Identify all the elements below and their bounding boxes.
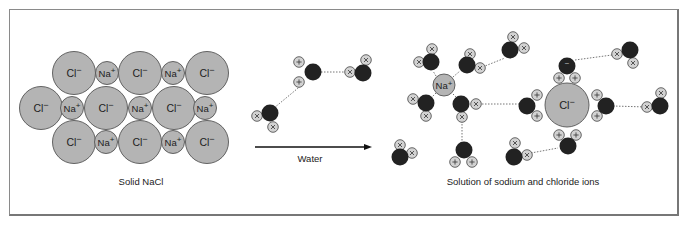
nacl-dissolution-diagram: Cl−Cl−Cl−Cl−Cl−Cl−Cl−Cl−Cl−Na+Na+Na+Na+N… (0, 0, 693, 232)
water-molecule: − (554, 58, 581, 84)
chloride-ion: Cl− (20, 87, 63, 130)
chloride-ion: Cl− (53, 121, 96, 164)
water-molecule (453, 96, 482, 123)
water-molecule (506, 138, 533, 166)
chloride-ion: Cl− (119, 52, 162, 95)
reaction-arrow (255, 144, 372, 150)
chloride-ion: Cl− (186, 121, 229, 164)
chloride-ion: Cl− (186, 52, 229, 95)
solid-nacl-lattice: Cl−Cl−Cl−Cl−Cl−Cl−Cl−Cl−Cl−Na+Na+Na+Na+N… (20, 52, 229, 164)
water-molecule (612, 42, 639, 69)
sodium-ion: Na+ (194, 97, 217, 120)
sodium-ion: Na+ (162, 131, 185, 154)
water-arrow-label: Water (298, 153, 323, 164)
water-molecule (519, 90, 543, 122)
solution-ions: Na+ Cl− − (392, 32, 669, 168)
water-molecule (294, 57, 322, 88)
chloride-ion: Cl− (153, 87, 196, 130)
chloride-ion: Cl− (119, 121, 162, 164)
water-molecule (414, 44, 440, 71)
chloride-ion: Cl− (85, 87, 128, 130)
solution-caption: Solution of sodium and chloride ions (447, 176, 600, 187)
water-molecule (592, 90, 615, 122)
water-molecule (642, 88, 669, 115)
water-molecule (252, 105, 279, 133)
sodium-ion: Na+ (162, 62, 185, 85)
sodium-ion: Na+ (96, 62, 119, 85)
water-molecule (459, 49, 486, 74)
water-molecule (554, 130, 582, 155)
water-molecules-free (252, 55, 372, 133)
water-molecule (392, 140, 418, 166)
solid-nacl-caption: Solid NaCl (119, 176, 164, 187)
chloride-ion: Cl− (53, 52, 96, 95)
svg-text:−: − (565, 59, 570, 68)
water-molecule (408, 94, 435, 122)
water-molecule (345, 55, 372, 82)
sodium-ion: Na+ (61, 97, 84, 120)
water-molecule (450, 142, 478, 168)
sodium-ion: Na+ (129, 97, 152, 120)
water-molecule (502, 32, 530, 59)
sodium-ion: Na+ (95, 131, 118, 154)
